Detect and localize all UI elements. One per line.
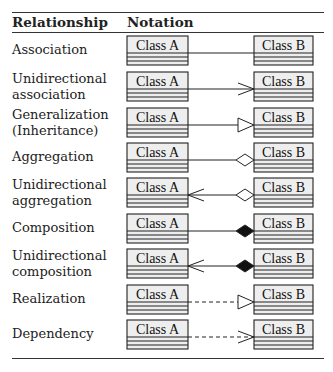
class-a-box: Class A: [127, 72, 188, 101]
svg-text:Class A: Class A: [136, 74, 180, 89]
class-b-box: Class B: [254, 108, 313, 137]
class-a-box: Class A: [127, 108, 188, 137]
notation-diagram: Class AClass BClass AClass BClass AClass…: [0, 0, 333, 372]
hollow-triangle-icon: [238, 295, 254, 309]
svg-text:Class A: Class A: [136, 110, 180, 125]
svg-text:Class B: Class B: [262, 145, 305, 160]
filled-diamond-icon: [236, 260, 254, 272]
class-a-box: Class A: [127, 36, 188, 65]
hollow-diamond-icon: [236, 189, 254, 201]
svg-text:Class A: Class A: [136, 251, 180, 266]
filled-diamond-icon: [236, 225, 254, 237]
svg-text:Class B: Class B: [262, 74, 305, 89]
class-b-box: Class B: [254, 285, 313, 314]
svg-text:Class A: Class A: [136, 145, 180, 160]
class-b-box: Class B: [254, 320, 313, 349]
svg-text:Class A: Class A: [136, 38, 180, 53]
class-a-box: Class A: [127, 320, 188, 349]
class-b-box: Class B: [254, 249, 313, 278]
svg-text:Class B: Class B: [262, 38, 305, 53]
hollow-diamond-icon: [236, 154, 254, 166]
class-b-box: Class B: [254, 214, 313, 243]
hollow-triangle-icon: [238, 118, 254, 132]
svg-text:Class B: Class B: [262, 322, 305, 337]
svg-text:Class B: Class B: [262, 216, 305, 231]
class-b-box: Class B: [254, 72, 313, 101]
svg-text:Class B: Class B: [262, 180, 305, 195]
class-b-box: Class B: [254, 143, 313, 172]
svg-text:Class A: Class A: [136, 322, 180, 337]
class-a-box: Class A: [127, 249, 188, 278]
class-a-box: Class A: [127, 178, 188, 207]
class-a-box: Class A: [127, 143, 188, 172]
svg-text:Class B: Class B: [262, 251, 305, 266]
svg-text:Class A: Class A: [136, 216, 180, 231]
svg-text:Class B: Class B: [262, 287, 305, 302]
class-b-box: Class B: [254, 178, 313, 207]
class-b-box: Class B: [254, 36, 313, 65]
svg-text:Class A: Class A: [136, 287, 180, 302]
svg-text:Class B: Class B: [262, 110, 305, 125]
class-a-box: Class A: [127, 214, 188, 243]
svg-text:Class A: Class A: [136, 180, 180, 195]
class-a-box: Class A: [127, 285, 188, 314]
